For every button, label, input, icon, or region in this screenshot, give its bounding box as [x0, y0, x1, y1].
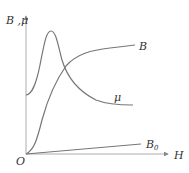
- bh-mu-diagram: B ,μ B μ B0 H O: [0, 0, 189, 173]
- diagram-canvas: B ,μ B μ B0 H O: [0, 0, 189, 173]
- y-axis-label: B ,μ: [5, 14, 28, 27]
- b-curve-label: B: [138, 40, 147, 53]
- b0-line: [26, 144, 141, 154]
- b0-line-label: B0: [145, 138, 159, 152]
- x-axis-label: H: [173, 149, 184, 162]
- origin-label: O: [16, 155, 25, 168]
- mu-curve-label: μ: [114, 91, 121, 104]
